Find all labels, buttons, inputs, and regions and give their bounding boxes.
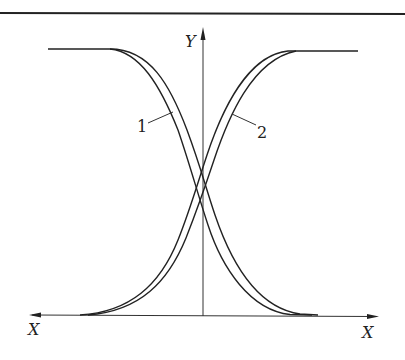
curve-2-inner <box>88 51 296 315</box>
curve-2-outer <box>80 51 358 315</box>
y-axis-label: Y <box>185 32 197 51</box>
curve-2-leader-line <box>232 114 256 125</box>
top-border-rule <box>0 13 405 14</box>
curve-2-label: 2 <box>257 123 267 142</box>
curve-1-label: 1 <box>137 117 147 136</box>
sigmoid-curves-diagram: 1 2 Y X X <box>0 0 405 360</box>
curve-1-leader-line <box>148 112 173 123</box>
x-axis-label-right: X <box>360 323 374 342</box>
curve-2-group <box>80 51 358 315</box>
curve-1-inner <box>110 49 312 315</box>
curve-1-group <box>48 49 318 315</box>
x-axis-right-arrow-icon <box>367 314 379 319</box>
y-axis-arrow-icon <box>201 27 206 40</box>
x-axis-label-left: X <box>26 320 40 339</box>
curve-1-outer <box>48 49 318 315</box>
x-axis-left-arrow-icon <box>29 313 41 318</box>
